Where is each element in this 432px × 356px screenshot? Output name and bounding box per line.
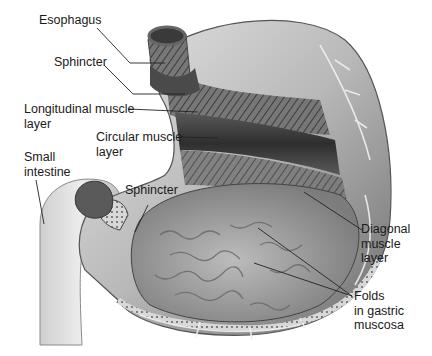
- label-esophagus: Esophagus: [39, 13, 102, 28]
- esophagus-opening: [149, 27, 185, 45]
- label-sphincter-bottom: Sphincter: [125, 183, 178, 198]
- label-circular-muscle: Circular muscle layer: [96, 130, 182, 159]
- label-longitudinal-muscle: Longitudinal muscle layer: [24, 102, 135, 131]
- label-gastric-folds: Folds in gastric muscosa: [354, 289, 404, 333]
- duodenum-opening: [75, 181, 112, 218]
- label-sphincter-top: Sphincter: [54, 55, 107, 70]
- label-diagonal-muscle: Diagonal muscle layer: [361, 222, 410, 266]
- label-small-intestine: Small intestine: [24, 150, 71, 179]
- gastric-mucosa-shape: [131, 184, 359, 322]
